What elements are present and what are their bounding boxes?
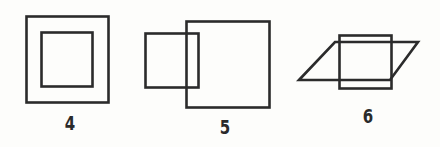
figure-5 (146, 22, 270, 108)
figure-4-outer-square (27, 17, 109, 103)
figure-6 (299, 36, 418, 89)
figure-4-inner-square (42, 33, 93, 87)
figure-5-label: 5 (218, 117, 233, 137)
figure-5-small-square (146, 34, 199, 88)
figure-4 (27, 17, 109, 103)
figure-6-label: 6 (361, 106, 376, 126)
figure-4-label: 4 (63, 113, 78, 133)
figure-6-parallelogram (299, 42, 418, 80)
